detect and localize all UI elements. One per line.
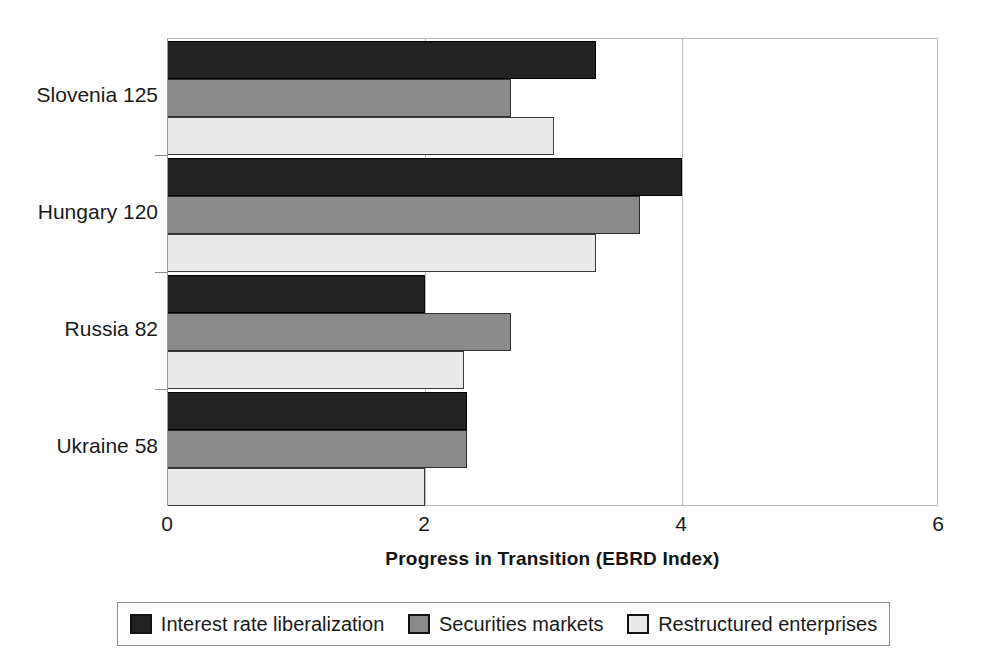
- bar: [168, 234, 596, 272]
- bar-group: [168, 390, 937, 507]
- legend-swatch-icon: [130, 614, 152, 634]
- category-label: Ukraine 58: [8, 434, 158, 458]
- legend-label: Restructured enterprises: [658, 613, 877, 636]
- legend-item[interactable]: Interest rate liberalization: [130, 613, 384, 636]
- x-axis-tick-label: 0: [161, 512, 173, 536]
- bar: [168, 351, 464, 389]
- category-label: Russia 82: [8, 317, 158, 341]
- bar: [168, 313, 511, 351]
- x-axis-tick-label: 6: [932, 512, 944, 536]
- x-axis-tick-label: 2: [418, 512, 430, 536]
- legend-label: Interest rate liberalization: [161, 613, 384, 636]
- bar-group: [168, 39, 937, 156]
- category-axis: Slovenia 125Hungary 120Russia 82Ukraine …: [0, 38, 158, 506]
- bar-group: [168, 273, 937, 390]
- bar: [168, 196, 640, 234]
- x-axis-tick-labels: 0246: [167, 512, 938, 542]
- bar: [168, 79, 511, 117]
- bar-chart: Slovenia 125Hungary 120Russia 82Ukraine …: [0, 0, 989, 671]
- category-label: Slovenia 125: [8, 83, 158, 107]
- legend-item[interactable]: Securities markets: [408, 613, 604, 636]
- legend-swatch-icon: [408, 614, 430, 634]
- bar: [168, 117, 554, 155]
- x-axis-tick-label: 4: [675, 512, 687, 536]
- bar-group: [168, 156, 937, 273]
- chart-legend: Interest rate liberalizationSecurities m…: [117, 602, 890, 646]
- legend-swatch-icon: [627, 614, 649, 634]
- category-label: Hungary 120: [8, 200, 158, 224]
- category-axis-tick: [155, 155, 167, 156]
- bar: [168, 158, 682, 196]
- bar: [168, 275, 425, 313]
- category-axis-tick: [155, 389, 167, 390]
- x-axis-title: Progress in Transition (EBRD Index): [167, 548, 938, 570]
- bar: [168, 468, 425, 506]
- legend-label: Securities markets: [439, 613, 604, 636]
- plot-area: [167, 38, 938, 506]
- bar: [168, 430, 467, 468]
- bar: [168, 41, 596, 79]
- bar: [168, 392, 467, 430]
- legend-item[interactable]: Restructured enterprises: [627, 613, 877, 636]
- category-axis-tick: [155, 272, 167, 273]
